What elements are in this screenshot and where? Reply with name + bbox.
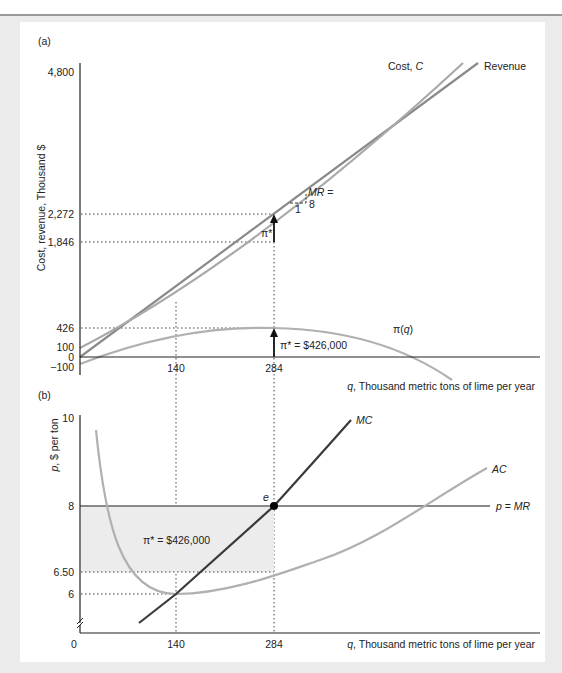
ytick-4800: 4,800 bbox=[48, 66, 74, 78]
profit-area-label: π* = $426,000 bbox=[143, 534, 210, 546]
mr-label: MR = bbox=[308, 186, 333, 198]
xtick-284: 284 bbox=[265, 362, 283, 374]
profit-label: π(q) bbox=[393, 323, 413, 335]
pi-star-arrow-lower bbox=[270, 328, 278, 357]
xtick-284-b: 284 bbox=[265, 638, 283, 650]
mc-label: MC bbox=[356, 414, 373, 426]
revenue-line bbox=[80, 63, 478, 357]
xtick-140-b: 140 bbox=[167, 638, 185, 650]
mr-run-label: 1 bbox=[295, 203, 301, 215]
ytick-10: 10 bbox=[62, 412, 74, 424]
price-mr-label: p = MR bbox=[495, 500, 531, 512]
revenue-label: Revenue bbox=[484, 60, 526, 72]
ytick-2272: 2,272 bbox=[48, 208, 74, 220]
ytick-426: 426 bbox=[56, 322, 74, 334]
cost-curve bbox=[80, 63, 463, 348]
pi-star-upper-label: π* bbox=[261, 227, 272, 239]
panel-b: (b) p, $ per ton e 10 8 6.50 6 0 bbox=[38, 389, 540, 650]
ytick-1846: 1,846 bbox=[48, 236, 74, 248]
ac-label: AC bbox=[491, 463, 507, 475]
panel-b-label: (b) bbox=[38, 389, 51, 401]
ytick-6-50: 6.50 bbox=[54, 566, 75, 578]
mr-rise-label: 8 bbox=[309, 198, 315, 210]
panel-a-y-ticks: 4,800 2,272 1,846 426 100 0 −100 bbox=[48, 66, 74, 373]
mr-slope-marker: 1 8 MR = bbox=[290, 186, 333, 215]
equilibrium-point-e bbox=[270, 502, 278, 510]
figure-svg: (a) Cost, revenue, Thousand $ 4,800 2,27… bbox=[0, 0, 562, 673]
panel-a-ylabel: Cost, revenue, Thousand $ bbox=[35, 145, 47, 272]
pi-star-value-label: π* = $426,000 bbox=[280, 339, 347, 351]
xtick-0: 0 bbox=[71, 638, 77, 650]
panel-b-ylabel: p, $ per ton bbox=[48, 418, 60, 472]
panel-b-xlabel: q, Thousand metric tons of lime per year bbox=[347, 638, 535, 650]
xtick-140: 140 bbox=[167, 362, 185, 374]
cost-label: Cost, C bbox=[388, 60, 423, 72]
equilibrium-label: e bbox=[263, 491, 269, 503]
panel-a-label: (a) bbox=[38, 35, 51, 47]
ytick-8: 8 bbox=[68, 500, 74, 512]
panel-a-xlabel: q, Thousand metric tons of lime per year bbox=[347, 380, 535, 392]
ytick-minus100: −100 bbox=[50, 361, 74, 373]
ytick-6: 6 bbox=[68, 588, 74, 600]
